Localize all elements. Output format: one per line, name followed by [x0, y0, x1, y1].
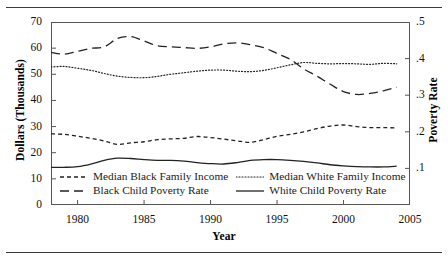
legend-item: Median Black Family Income: [60, 170, 228, 183]
figure-rule-bottom: [6, 252, 442, 253]
figure: Dollars (Thousands) Poverty Rate Year 01…: [0, 0, 448, 264]
y-tick-label-left: 60: [8, 41, 42, 53]
y-tick-label-left: 50: [8, 67, 42, 79]
y-tick-label-left: 0: [8, 198, 42, 210]
legend-label: Black Child Poverty Rate: [93, 184, 209, 197]
figure-rule-top: [6, 7, 442, 8]
series-line: [51, 125, 397, 144]
y-tick-label-left: 40: [8, 93, 42, 105]
y-axis-label-right: Poverty Rate: [427, 45, 439, 175]
series-line: [51, 158, 397, 167]
legend-swatch: [60, 186, 88, 196]
x-tick-label: 1985: [121, 213, 167, 225]
x-tick-label: 1990: [188, 213, 234, 225]
legend-label: Median White Family Income: [269, 170, 405, 183]
y-tick-label-right: .2: [416, 125, 448, 137]
legend-swatch: [236, 172, 264, 182]
x-axis-label: Year: [0, 230, 448, 242]
legend: Median Black Family IncomeMedian White F…: [60, 170, 405, 197]
x-tick-label: 1995: [254, 213, 300, 225]
series-layer: [51, 37, 397, 168]
legend-swatch: [236, 186, 264, 196]
y-tick-label-left: 20: [8, 146, 42, 158]
x-tick-label: 2005: [387, 213, 433, 225]
y-tick-label-right: .5: [416, 15, 448, 27]
legend-item: Black Child Poverty Rate: [60, 184, 228, 197]
y-tick-label-right: .3: [416, 88, 448, 100]
legend-item: Median White Family Income: [236, 170, 405, 183]
series-line: [51, 37, 397, 95]
y-tick-label-left: 30: [8, 120, 42, 132]
series-line: [51, 62, 397, 77]
y-tick-label-left: 70: [8, 15, 42, 27]
legend-label: White Child Poverty Rate: [269, 184, 386, 197]
legend-swatch: [60, 172, 88, 182]
legend-item: White Child Poverty Rate: [236, 184, 405, 197]
y-tick-label-right: .4: [416, 52, 448, 64]
y-tick-label-left: 10: [8, 172, 42, 184]
x-tick-label: 1980: [55, 213, 101, 225]
legend-label: Median Black Family Income: [93, 170, 228, 183]
y-tick-label-right: .1: [416, 161, 448, 173]
x-tick-label: 2000: [321, 213, 367, 225]
